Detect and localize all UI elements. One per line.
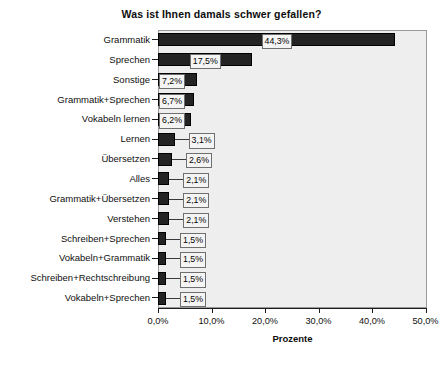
label-leader-line [166, 239, 180, 240]
label-leader-line [169, 199, 183, 200]
bar-value-label: 1,5% [180, 292, 206, 307]
bars-layer: 44,3%17,5%7,2%6,7%6,2%3,1%2,6%2,1%2,1%2,… [158, 30, 427, 308]
x-axis-line [158, 308, 427, 309]
category-label-row: Sprechen [0, 50, 158, 70]
bar-value-label: 1,5% [180, 233, 206, 248]
category-label: Alles [129, 174, 150, 184]
category-label-row: Schreiben+Sprechen [0, 229, 158, 249]
category-label: Übersetzen [101, 154, 150, 164]
bar-value-label: 3,1% [189, 133, 215, 148]
x-axis-tick-label: 30,0% [305, 316, 331, 326]
x-axis-tick-label: 20,0% [252, 316, 278, 326]
bar-value-label: 17,5% [190, 54, 221, 69]
category-label: Verstehen [107, 214, 150, 224]
label-leader-line [166, 278, 180, 279]
bar-value-label: 6,2% [159, 113, 185, 128]
label-leader-line [166, 258, 180, 259]
bar [158, 192, 169, 205]
category-label-row: Übersetzen [0, 149, 158, 169]
category-label-row: Schreiben+Rechtschreibung [0, 268, 158, 288]
category-label-row: Lernen [0, 129, 158, 149]
x-axis-tick-label: 0,0% [148, 316, 169, 326]
label-leader-line [169, 219, 183, 220]
bar-chart: Was ist Ihnen damals schwer gefallen? Gr… [0, 0, 443, 371]
x-axis-tick-label: 50,0% [412, 316, 438, 326]
category-label: Grammatik+Sprechen [57, 95, 150, 105]
category-label: Sprechen [109, 55, 150, 65]
bar-value-label: 7,2% [159, 74, 185, 89]
bar-value-label: 1,5% [180, 252, 206, 267]
bar-value-label: 2,6% [186, 153, 212, 168]
bar-value-label: 2,1% [183, 193, 209, 208]
bar-value-label: 6,7% [159, 94, 185, 109]
bar [158, 292, 166, 305]
category-label-row: Vokabeln+Sprechen [0, 288, 158, 308]
category-label: Grammatik+Übersetzen [49, 194, 150, 204]
category-label: Vokabeln+Sprechen [65, 293, 150, 303]
label-leader-line [175, 139, 189, 140]
bar [158, 252, 166, 265]
category-label: Grammatik [104, 35, 150, 45]
bar [158, 212, 169, 225]
x-axis-tick [158, 308, 159, 313]
bar [158, 153, 172, 166]
x-axis-title: Prozente [158, 333, 427, 344]
x-axis-tick [265, 308, 266, 313]
bar [158, 133, 175, 146]
category-label-row: Grammatik [0, 30, 158, 50]
chart-title: Was ist Ihnen damals schwer gefallen? [0, 8, 443, 20]
category-label-row: Vokabeln+Grammatik [0, 248, 158, 268]
bar [158, 172, 169, 185]
category-label-row: Alles [0, 169, 158, 189]
bar-value-label: 2,1% [183, 213, 209, 228]
bar-value-label: 2,1% [183, 173, 209, 188]
x-axis-tick-label: 40,0% [359, 316, 385, 326]
x-axis-tick [319, 308, 320, 313]
category-label: Schreiben+Rechtschreibung [30, 273, 150, 283]
x-axis-tick [372, 308, 373, 313]
bar [158, 272, 166, 285]
category-label-row: Grammatik+Übersetzen [0, 189, 158, 209]
label-leader-line [172, 159, 186, 160]
category-axis: GrammatikSprechenSonstigeGrammatik+Sprec… [0, 30, 158, 308]
bar-value-label: 44,3% [262, 34, 293, 49]
category-label: Schreiben+Sprechen [61, 234, 150, 244]
x-axis-tick [212, 308, 213, 313]
category-label-row: Vokabeln lernen [0, 109, 158, 129]
category-label: Vokabeln+Grammatik [59, 253, 150, 263]
x-axis-tick [426, 308, 427, 313]
category-label-row: Verstehen [0, 209, 158, 229]
category-label: Vokabeln lernen [82, 114, 150, 124]
category-label-row: Sonstige [0, 70, 158, 90]
bar-value-label: 1,5% [180, 272, 206, 287]
bar [158, 232, 166, 245]
label-leader-line [166, 298, 180, 299]
category-label: Lernen [120, 134, 150, 144]
category-label: Sonstige [113, 75, 150, 85]
category-label-row: Grammatik+Sprechen [0, 90, 158, 110]
label-leader-line [169, 179, 183, 180]
x-axis-tick-label: 10,0% [198, 316, 224, 326]
